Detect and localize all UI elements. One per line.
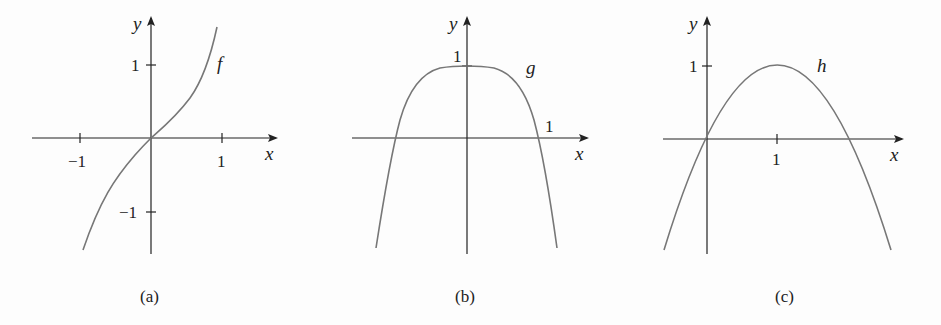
figure: −1 1 1 −1 x y f (a) 1 1 x y g (b) 1 1 x … [0, 0, 941, 325]
caption-b: (b) [455, 287, 475, 306]
panel-c: 1 1 x y h (c) [663, 13, 902, 306]
x-tick-label-1: 1 [217, 152, 226, 171]
y-tick-label-neg1: −1 [119, 203, 137, 222]
x-tick-label-neg1: −1 [68, 152, 86, 171]
function-label-f: f [217, 53, 225, 74]
y-axis-label: y [687, 13, 698, 34]
y-tick-label-1: 1 [453, 47, 462, 66]
y-axis-label: y [447, 13, 458, 34]
x-axis-label: x [889, 144, 899, 165]
x-tick-label-1: 1 [545, 117, 554, 136]
caption-a: (a) [140, 287, 159, 306]
y-axis-label: y [131, 13, 142, 34]
x-axis-label: x [574, 143, 584, 164]
function-label-h: h [817, 55, 827, 76]
function-label-g: g [526, 57, 536, 78]
y-tick-label-1: 1 [131, 56, 140, 75]
panel-a: −1 1 1 −1 x y f (a) [32, 13, 276, 306]
caption-c: (c) [775, 287, 794, 306]
x-axis-label: x [264, 143, 274, 164]
y-tick-label-1: 1 [689, 57, 698, 76]
x-tick-label-1: 1 [772, 150, 781, 169]
panel-b: 1 1 x y g (b) [352, 13, 587, 306]
